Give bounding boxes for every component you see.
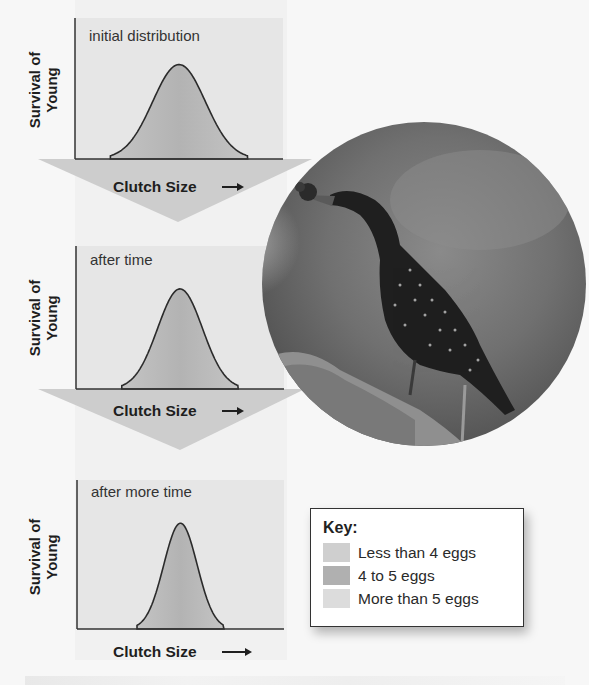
legend-swatch bbox=[323, 566, 350, 585]
chart-title: after more time bbox=[91, 483, 192, 500]
legend-title: Key: bbox=[323, 519, 511, 537]
charts-group: initial distributionClutch SizeSurvival … bbox=[26, 18, 284, 660]
legend-item-4-to-5: 4 to 5 eggs bbox=[323, 564, 511, 587]
x-axis-label: Clutch Size bbox=[113, 402, 197, 419]
legend-swatch bbox=[323, 589, 350, 608]
y-axis-label: Survival ofYoung bbox=[26, 51, 60, 129]
legend-label: More than 5 eggs bbox=[358, 590, 479, 608]
x-axis-label: Clutch Size bbox=[113, 643, 197, 660]
cropped-caption bbox=[25, 676, 565, 685]
chart-title: after time bbox=[90, 251, 153, 268]
y-axis-label: Survival ofYoung bbox=[26, 518, 60, 596]
legend-key: Key: Less than 4 eggs 4 to 5 eggs More t… bbox=[310, 508, 524, 627]
legend-label: 4 to 5 eggs bbox=[358, 567, 435, 585]
y-axis-label: Survival ofYoung bbox=[26, 279, 60, 357]
legend-swatch bbox=[323, 543, 350, 562]
legend-item-less-than-4: Less than 4 eggs bbox=[323, 541, 511, 564]
chart-title: initial distribution bbox=[89, 27, 200, 44]
x-axis-label: Clutch Size bbox=[113, 178, 197, 195]
legend-item-more-than-5: More than 5 eggs bbox=[323, 587, 511, 610]
legend-label: Less than 4 eggs bbox=[358, 544, 476, 562]
